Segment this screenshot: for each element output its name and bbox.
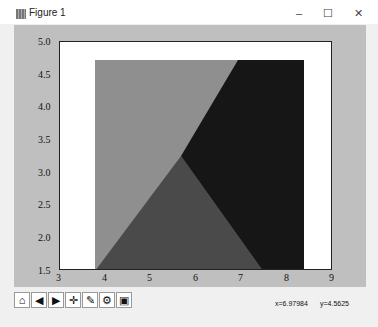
plot-axes[interactable] xyxy=(59,41,332,270)
maximize-button[interactable]: ☐ xyxy=(316,4,340,22)
save-icon[interactable]: ▣ xyxy=(116,292,132,308)
window-title: Figure 1 xyxy=(29,7,66,18)
x-tick: 3 xyxy=(56,272,61,283)
pan-icon[interactable]: ✛ xyxy=(65,292,81,308)
cursor-y: y=4.5625 xyxy=(320,300,349,307)
navigation-toolbar: ⌂◀▶✛✎⚙▣ xyxy=(14,290,133,310)
zoom-icon[interactable]: ✎ xyxy=(82,292,98,308)
plot-regions xyxy=(60,42,332,270)
minimize-button[interactable]: – xyxy=(287,4,311,22)
y-tick: 3.5 xyxy=(38,134,51,145)
forward-icon[interactable]: ▶ xyxy=(48,292,64,308)
y-tick: 3.0 xyxy=(38,167,51,178)
x-tick: 8 xyxy=(284,272,289,283)
y-tick: 4.0 xyxy=(38,101,51,112)
y-tick: 2.5 xyxy=(38,199,51,210)
subplots-icon[interactable]: ⚙ xyxy=(99,292,115,308)
y-tick: 1.5 xyxy=(38,265,51,276)
x-tick: 6 xyxy=(193,272,198,283)
y-tick: 2.0 xyxy=(38,232,51,243)
x-tick: 4 xyxy=(102,272,107,283)
y-tick: 4.5 xyxy=(38,69,51,80)
x-tick: 5 xyxy=(147,272,152,283)
x-tick: 9 xyxy=(329,272,334,283)
cursor-x: x=6.97984 xyxy=(275,300,308,307)
y-tick: 5.0 xyxy=(38,36,51,47)
close-button[interactable]: ✕ xyxy=(346,4,370,22)
x-tick: 7 xyxy=(238,272,243,283)
home-icon[interactable]: ⌂ xyxy=(14,292,30,308)
app-icon xyxy=(16,9,26,19)
title-bar: Figure 1 – ☐ ✕ xyxy=(0,0,378,24)
back-icon[interactable]: ◀ xyxy=(31,292,47,308)
